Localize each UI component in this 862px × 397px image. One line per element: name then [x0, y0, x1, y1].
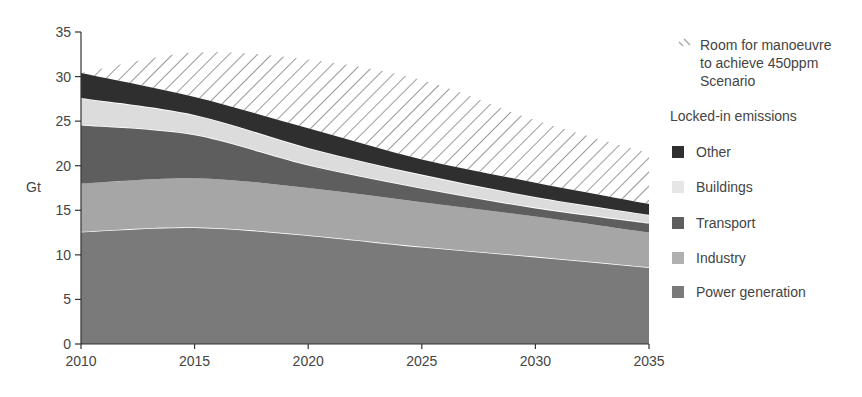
- legend-label: Buildings: [696, 178, 753, 196]
- x-tick-label: 2030: [520, 353, 551, 369]
- y-tick-label: 20: [55, 158, 71, 174]
- plot-area: [81, 52, 649, 344]
- y-tick-label: 0: [63, 336, 71, 352]
- x-tick-label: 2010: [65, 353, 96, 369]
- x-tick-label: 2020: [293, 353, 324, 369]
- legend-swatch-icon: [672, 181, 684, 193]
- hatch-swatch-icon: [678, 38, 692, 50]
- legend-group-title: Locked-in emissions: [670, 108, 797, 124]
- legend-swatch-icon: [672, 252, 684, 264]
- legend-swatch-icon: [672, 286, 684, 298]
- legend-swatch-icon: [672, 217, 684, 229]
- y-axis-label: Gt: [26, 179, 41, 195]
- y-tick-label: 5: [63, 291, 71, 307]
- y-tick-label: 30: [55, 69, 71, 85]
- y-tick-label: 15: [55, 202, 71, 218]
- x-tick-label: 2035: [633, 353, 664, 369]
- y-tick-label: 10: [55, 247, 71, 263]
- legend-label: Other: [696, 143, 731, 161]
- legend-hatch-label: Room for manoeuvre to achieve 450ppm Sce…: [700, 36, 860, 90]
- legend-swatch-icon: [672, 146, 684, 158]
- legend-label: Transport: [696, 214, 755, 232]
- x-tick-label: 2015: [179, 353, 210, 369]
- y-tick-label: 35: [55, 24, 71, 40]
- y-tick-label: 25: [55, 113, 71, 129]
- x-tick-label: 2025: [406, 353, 437, 369]
- legend-label: Power generation: [696, 283, 806, 301]
- legend-label: Industry: [696, 249, 746, 267]
